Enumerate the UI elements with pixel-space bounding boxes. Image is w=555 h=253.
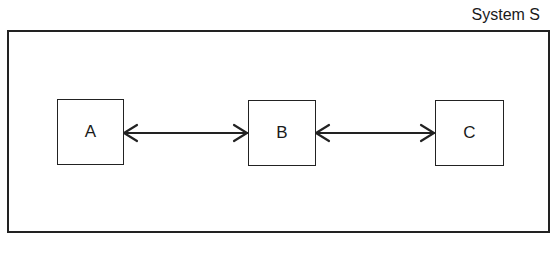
node-b: B xyxy=(248,100,316,166)
edge-a-b xyxy=(124,125,247,141)
node-c-label: C xyxy=(463,123,475,143)
node-a-label: A xyxy=(85,122,96,142)
edge-b-c xyxy=(316,125,434,141)
node-b-label: B xyxy=(276,123,287,143)
node-a: A xyxy=(57,99,124,165)
node-c: C xyxy=(435,100,504,166)
